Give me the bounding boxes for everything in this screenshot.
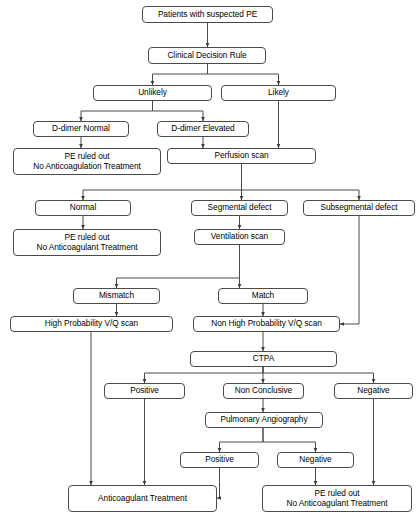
node-angio_positive[interactable]: Positive (180, 452, 259, 468)
node-ventilation_scan[interactable]: Ventilation scan (194, 229, 285, 245)
node-pulm_angiography[interactable]: Pulmonary Angiography (205, 412, 323, 428)
edge-subsegmental_defect-to-non_high_prob_vq (340, 216, 359, 324)
edge-ctpa-to-ctpa_negative (263, 367, 374, 383)
flowchart-canvas: Patients with suspected PEClinical Decis… (0, 0, 418, 523)
node-likely[interactable]: Likely (221, 85, 336, 101)
edge-ctpa-to-ctpa_positive (145, 367, 264, 383)
node-non_high_prob_vq[interactable]: Non High Probability V/Q scan (193, 316, 340, 332)
node-ruled_out_1[interactable]: PE ruled out No Anticoagulation Treatmen… (13, 148, 161, 175)
node-normal[interactable]: Normal (35, 200, 131, 216)
node-segmental_defect[interactable]: Segmental defect (191, 200, 288, 216)
edge-unlikely-to-ddimer_normal (81, 101, 153, 121)
node-ddimer_normal[interactable]: D-dimer Normal (33, 121, 129, 137)
node-ctpa_positive[interactable]: Positive (104, 383, 185, 399)
node-mismatch[interactable]: Mismatch (73, 288, 160, 304)
node-angio_negative[interactable]: Negative (277, 452, 354, 468)
edge-clinical_rule-to-likely (208, 64, 279, 85)
edge-layer (0, 0, 418, 523)
edge-pulm_angiography-to-angio_positive (220, 428, 264, 452)
node-match[interactable]: Match (218, 288, 308, 304)
node-anticoag_treatment[interactable]: Anticoagulant Treatment (68, 485, 217, 512)
node-ruled_out_3[interactable]: PE ruled out No Anticoagulant Treatment (262, 485, 412, 512)
node-subsegmental_defect[interactable]: Subsegmental defect (303, 200, 415, 216)
edge-pulm_angiography-to-angio_negative (263, 428, 316, 452)
node-ctpa_negative[interactable]: Negative (334, 383, 413, 399)
caption-strip (0, 516, 418, 523)
node-perfusion_scan[interactable]: Perfusion scan (167, 148, 316, 164)
node-suspected_pe[interactable]: Patients with suspected PE (142, 6, 273, 23)
node-clinical_rule[interactable]: Clinical Decision Rule (148, 47, 266, 64)
node-ctpa_nonconclusive[interactable]: Non Conclusive (223, 383, 304, 399)
edge-angio_positive-to-anticoag_treatment (217, 468, 220, 498)
edge-perfusion_scan-to-subsegmental_defect (242, 164, 360, 200)
edge-unlikely-to-ddimer_elevated (153, 101, 204, 121)
node-high_prob_vq[interactable]: High Probability V/Q scan (10, 316, 173, 332)
node-ctpa[interactable]: CTPA (190, 351, 337, 367)
node-unlikely[interactable]: Unlikely (93, 85, 212, 101)
edge-clinical_rule-to-unlikely (153, 64, 208, 85)
node-ddimer_elevated[interactable]: D-dimer Elevated (157, 121, 249, 137)
node-ruled_out_2[interactable]: PE ruled out No Anticoagulant Treatment (13, 229, 161, 256)
